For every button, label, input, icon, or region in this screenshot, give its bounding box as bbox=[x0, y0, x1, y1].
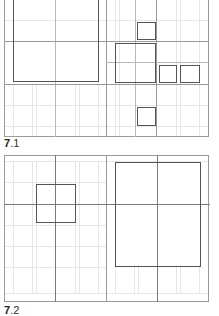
medium-module-box bbox=[115, 43, 156, 83]
figure-subnumber: .2 bbox=[10, 304, 19, 316]
small-module-box bbox=[137, 22, 156, 40]
figure-subnumber: .1 bbox=[10, 137, 19, 149]
small-module-box bbox=[159, 65, 177, 83]
large-module-box bbox=[13, 0, 99, 82]
row-divider bbox=[4, 84, 208, 85]
figure-caption: 7.2 bbox=[4, 304, 19, 316]
figure-7-1: 7.1 bbox=[0, 0, 219, 150]
column-divider bbox=[106, 155, 107, 302]
column-divider bbox=[106, 0, 107, 137]
figure-7-2: 7.2 bbox=[0, 155, 219, 312]
large-module-box bbox=[115, 162, 201, 267]
column-divider bbox=[156, 0, 157, 137]
small-module-box bbox=[180, 65, 200, 83]
figure-caption: 7.1 bbox=[4, 137, 19, 149]
column-divider bbox=[55, 155, 56, 302]
small-module-box bbox=[36, 184, 76, 223]
small-module-box bbox=[137, 107, 156, 126]
